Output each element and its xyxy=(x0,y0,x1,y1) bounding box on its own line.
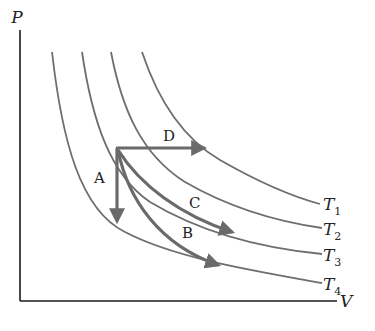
y-axis-label: P xyxy=(10,7,23,27)
label-d: D xyxy=(163,127,175,145)
label-c: C xyxy=(189,194,200,212)
label-t2: T2 xyxy=(323,219,341,243)
label-t1: T1 xyxy=(323,194,341,218)
label-t3: T3 xyxy=(323,245,341,269)
label-t4: T4 xyxy=(323,274,341,298)
isotherms xyxy=(52,52,322,283)
x-axis-label: V xyxy=(340,291,354,311)
label-b: B xyxy=(182,224,193,242)
label-a: A xyxy=(93,169,105,187)
processes xyxy=(116,148,232,265)
process-b-arrow xyxy=(118,150,218,265)
isotherm-labels: T1 T2 T3 T4 xyxy=(323,194,341,298)
isotherm-t2 xyxy=(111,52,322,228)
axes: P V xyxy=(10,7,354,311)
process-c-arrow xyxy=(118,150,232,232)
pv-diagram: P V T1 T2 T3 T4 A B C D xyxy=(0,0,375,331)
